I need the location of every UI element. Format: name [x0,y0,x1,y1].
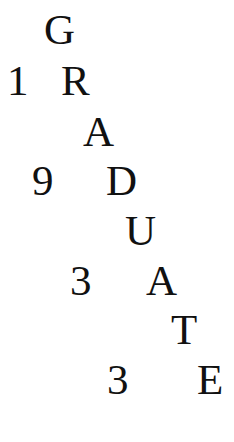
word-letter-e: E [197,358,223,401]
year-digit-3: 3 [70,259,92,302]
word-letter-a: A [146,259,177,302]
year-digit-1: 1 [7,59,29,102]
year-digit-9: 9 [32,159,54,202]
word-letter-t: T [171,308,197,351]
word-letter-d: D [106,159,137,202]
year-digit-3: 3 [107,358,129,401]
word-letter-g: G [44,8,75,51]
word-letter-r: R [61,59,90,102]
word-letter-u: U [125,209,156,252]
word-letter-a: A [83,110,114,153]
